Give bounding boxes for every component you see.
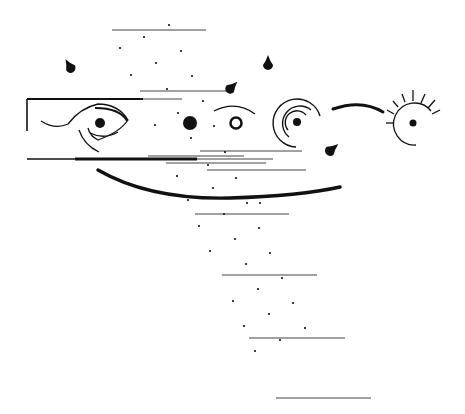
dot [243,325,245,327]
dot [177,112,179,114]
dot [213,125,215,127]
dot [168,24,170,26]
big-arc [98,170,340,198]
dot [154,124,156,126]
thick-line-group [27,99,197,159]
ring-with-arc [214,106,255,128]
dot [235,177,237,179]
dot [212,187,214,189]
teardrop-icon [263,55,273,70]
abstract-illustration [0,0,465,414]
dot [176,175,178,177]
dot [258,227,260,229]
dot [259,202,261,204]
dot [209,250,211,252]
dot [257,288,259,290]
dot [143,36,145,38]
dot [245,263,247,265]
teardrop-icon [223,78,241,96]
eye-icon [41,104,128,152]
dot [198,225,200,227]
teardrop-icon [61,57,77,75]
dot [180,50,182,52]
dot [234,238,236,240]
dot [279,339,281,341]
dot [292,302,294,304]
eye-pupil [95,118,105,128]
target-dot [293,118,301,126]
teardrop-icon [323,140,342,158]
dot [254,350,256,352]
dot [119,47,121,49]
thin-line-group [112,30,371,398]
dot [207,164,209,166]
dot [268,313,270,315]
dot [232,300,234,302]
dot [190,137,192,139]
target-icon [273,99,320,147]
dot [281,277,283,279]
dot [246,202,248,204]
sun-dot [410,120,417,127]
sun-icon [386,90,440,145]
solid-circle [183,116,197,130]
dot [155,62,157,64]
ring-circle [231,118,242,129]
dot [166,88,168,90]
dot [224,151,226,153]
small-arc [333,105,383,112]
dot [187,199,189,201]
dot [223,213,225,215]
dot [191,75,193,77]
dot [269,252,271,254]
dot [304,327,306,329]
dot [202,100,204,102]
dot [130,74,132,76]
